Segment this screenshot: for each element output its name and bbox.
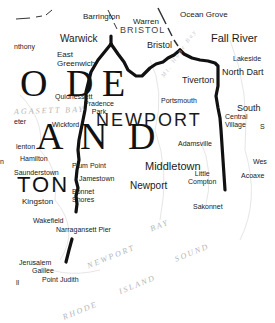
label-west-partial: Wes [253, 158, 267, 165]
label-newport[interactable]: Newport [130, 181, 167, 191]
label-jamestown[interactable]: Jamestown [79, 175, 114, 182]
label-east-greenwich[interactable]: East Greenwich [57, 50, 95, 68]
label-point-judith[interactable]: Point Judith [42, 276, 79, 283]
label-anthony[interactable]: nthony [14, 43, 35, 50]
label-s-partial: S [260, 123, 265, 130]
label-quidnessett[interactable]: Quidnessett [55, 93, 92, 100]
label-bristol[interactable]: Bristol [147, 41, 172, 50]
label-central-village[interactable]: Central Village [225, 113, 248, 129]
label-ll-partial: ll [16, 279, 19, 286]
label-warwick[interactable]: Warwick [60, 34, 97, 44]
label-south[interactable]: South [237, 104, 261, 113]
label-barrington[interactable]: Barrington [83, 13, 120, 21]
label-adamsville[interactable]: Adamsville [178, 140, 212, 147]
label-allenton[interactable]: lenton [16, 143, 35, 150]
label-lakeside[interactable]: Lakeside [233, 55, 261, 62]
label-galilee[interactable]: Galilee [32, 267, 54, 274]
label-little-compton[interactable]: Little Compton [188, 170, 216, 186]
label-bonnet-shores[interactable]: Bonnet Shores [72, 188, 94, 204]
rhode-letter-o: O [20, 64, 47, 102]
label-fall-river[interactable]: Fall River [211, 33, 257, 44]
label-kingston[interactable]: Kingston [22, 198, 53, 206]
rhode-letter-e: E [102, 64, 125, 102]
label-peter-partial: eter [14, 118, 26, 125]
label-portsmouth[interactable]: Portsmouth [161, 97, 197, 104]
label-bristol-county: BRISTOL [120, 26, 165, 35]
label-north-dartmouth[interactable]: North Dart [222, 68, 264, 77]
label-n-partial: n [0, 158, 4, 165]
label-narragansett-pier[interactable]: Narragansett Pier [56, 226, 111, 233]
label-warren[interactable]: Warren [133, 18, 159, 26]
label-plum-point[interactable]: Plum Point [72, 162, 106, 169]
label-hamilton[interactable]: Hamilton [20, 155, 48, 162]
label-ocean-grove[interactable]: Ocean Grove [180, 11, 228, 19]
label-saunderstown[interactable]: Saunderstown [14, 169, 59, 176]
washington-letters: TON [17, 174, 69, 196]
label-acoaxet[interactable]: Acoaxe [241, 172, 264, 179]
label-wakefield[interactable]: Wakefield [33, 217, 63, 224]
label-wickford[interactable]: Wickford [52, 121, 79, 128]
label-tiverton[interactable]: Tiverton [182, 76, 214, 85]
map-canvas[interactable]: O D E A N D TON BRISTOL NEWPORT Ocean Gr… [0, 0, 275, 323]
label-providence-park[interactable]: Pradence Park [84, 100, 114, 116]
label-jerusalem[interactable]: Jerusalem [19, 259, 51, 266]
label-sakonnet[interactable]: Sakonnet [193, 203, 223, 210]
